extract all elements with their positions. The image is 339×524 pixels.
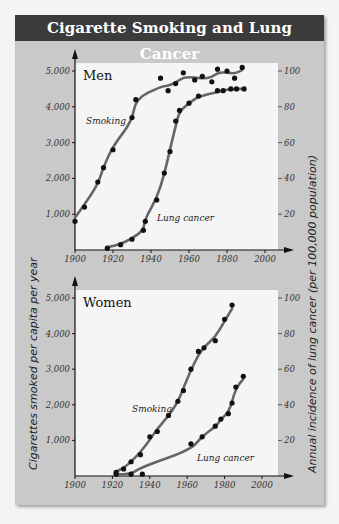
right-axis-title: Annual incidence of lung cancer (per 100…: [306, 155, 319, 474]
data-point: [154, 197, 159, 202]
data-point: [82, 204, 87, 209]
data-point: [215, 88, 220, 93]
right-tick-label: 60: [284, 138, 295, 148]
data-point: [173, 119, 178, 124]
left-axis-title: Cigarettes smoked per capita per year: [27, 256, 40, 470]
x-tick-label: 1960: [176, 480, 198, 490]
x-tick-label: 1920: [102, 254, 124, 264]
data-point: [240, 65, 245, 70]
data-point: [188, 441, 193, 446]
data-point: [218, 416, 223, 421]
data-point: [105, 246, 110, 251]
x-tick-label: 1920: [102, 480, 124, 490]
left-tick-label: 4,000: [45, 329, 71, 339]
x-tick-label: 2000: [253, 254, 276, 264]
data-point: [155, 429, 160, 434]
data-point: [228, 86, 233, 91]
x-tick-label: 1900: [64, 480, 86, 490]
data-point: [72, 219, 77, 224]
right-tick-label: 100: [284, 66, 301, 76]
data-point: [222, 317, 227, 322]
data-point: [188, 367, 193, 372]
x-axis-arrow-icon: [284, 473, 294, 479]
data-point: [101, 165, 106, 170]
right-tick-label: 40: [283, 173, 295, 183]
data-point: [114, 472, 119, 477]
data-point: [110, 147, 115, 152]
figure-card: Cigarette Smoking and Lung Cancer 1,0002…: [15, 15, 324, 505]
data-point: [232, 76, 237, 81]
data-point: [224, 68, 229, 73]
data-point: [229, 303, 234, 308]
panel-title-men: Men: [83, 68, 113, 83]
x-tick-label: 1900: [64, 254, 86, 264]
left-tick-label: 3,000: [46, 138, 71, 148]
left-tick-label: 1,000: [46, 209, 71, 219]
data-point: [177, 108, 182, 113]
chart-area: 1,0002,0003,0004,0005,000204060801001900…: [15, 15, 324, 505]
data-point: [175, 399, 180, 404]
data-point: [147, 434, 152, 439]
data-point: [118, 242, 123, 247]
left-tick-label: 5,000: [46, 66, 71, 76]
data-point: [129, 115, 134, 120]
data-point: [121, 466, 126, 471]
data-point: [167, 149, 172, 154]
data-point: [242, 86, 247, 91]
data-point: [221, 88, 226, 93]
data-point: [229, 400, 234, 405]
x-tick-label: 1960: [178, 254, 200, 264]
chart-panel-men: 1,0002,0003,0004,0005,000204060801001900…: [45, 49, 301, 264]
right-tick-label: 80: [284, 102, 295, 112]
panel-title-women: Women: [83, 295, 132, 310]
data-point: [226, 411, 231, 416]
x-axis-arrow-icon: [284, 247, 294, 253]
right-tick-label: 100: [284, 293, 301, 303]
data-point: [173, 81, 178, 86]
data-point: [213, 338, 218, 343]
data-point: [234, 86, 239, 91]
x-tick-label: 1980: [214, 480, 236, 490]
data-point: [95, 179, 100, 184]
left-tick-label: 2,000: [45, 173, 71, 183]
label-women-lung-cancer: Lung cancer: [196, 453, 255, 463]
data-point: [196, 93, 201, 98]
data-point: [129, 237, 134, 242]
right-tick-label: 60: [284, 364, 295, 374]
data-point: [181, 388, 186, 393]
x-tick-label: 1940: [140, 254, 162, 264]
data-point: [192, 77, 197, 82]
label-women-smoking: Smoking: [132, 404, 172, 414]
data-point: [133, 97, 138, 102]
data-point: [162, 170, 167, 175]
right-tick-label: 80: [284, 329, 295, 339]
data-point: [241, 374, 246, 379]
data-point: [181, 70, 186, 75]
data-point: [166, 88, 171, 93]
x-tick-label: 1980: [216, 254, 238, 264]
data-point: [213, 424, 218, 429]
y-axis-arrow-icon: [72, 276, 78, 286]
data-point: [201, 345, 206, 350]
label-men-lung-cancer: Lung cancer: [156, 213, 215, 223]
data-point: [129, 472, 134, 477]
left-tick-label: 3,000: [46, 364, 71, 374]
left-tick-label: 5,000: [46, 293, 71, 303]
data-point: [209, 79, 214, 84]
data-point: [233, 384, 238, 389]
right-tick-label: 20: [283, 209, 295, 219]
data-point: [186, 101, 191, 106]
right-tick-label: 20: [283, 435, 295, 445]
data-point: [215, 67, 220, 72]
data-point: [143, 219, 148, 224]
data-point: [138, 452, 143, 457]
data-point: [200, 434, 205, 439]
label-men-smoking: Smoking: [86, 116, 126, 126]
x-tick-label: 2000: [250, 480, 273, 490]
x-tick-label: 1940: [139, 480, 161, 490]
data-point: [158, 76, 163, 81]
data-point: [200, 74, 205, 79]
right-tick-label: 40: [283, 400, 295, 410]
left-tick-label: 2,000: [45, 400, 71, 410]
chart-panel-women: 1,0002,0003,0004,0005,000204060801001900…: [45, 276, 301, 490]
